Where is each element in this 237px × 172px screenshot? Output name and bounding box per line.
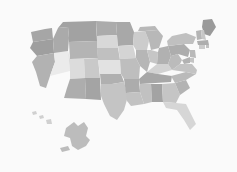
state-nebraska[interactable]	[97, 48, 120, 60]
state-alabama[interactable]	[151, 84, 163, 102]
state-kansas[interactable]	[98, 60, 121, 74]
state-arkansas[interactable]	[124, 79, 140, 93]
state-north-dakota[interactable]	[96, 21, 117, 36]
state-wyoming[interactable]	[69, 41, 98, 59]
state-oklahoma[interactable]	[100, 74, 124, 84]
state-new-mexico[interactable]	[85, 78, 101, 100]
state-connecticut[interactable]	[199, 45, 205, 49]
state-new-jersey[interactable]	[190, 50, 196, 58]
us-choropleth-map-figure	[0, 0, 237, 172]
state-rhode-island[interactable]	[206, 45, 209, 48]
state-colorado[interactable]	[84, 58, 100, 78]
state-iowa[interactable]	[118, 45, 136, 59]
state-vermont[interactable]	[196, 30, 202, 40]
state-south-dakota[interactable]	[97, 35, 118, 48]
us-states-choropleth-svg	[0, 0, 237, 172]
state-minnesota[interactable]	[116, 22, 134, 46]
state-missouri[interactable]	[120, 58, 140, 79]
